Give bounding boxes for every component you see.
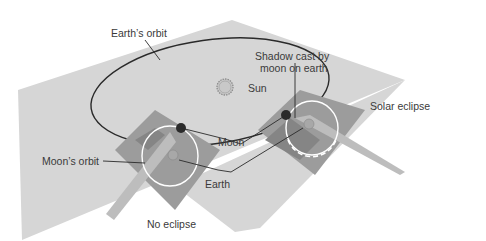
diagram-canvas (0, 0, 486, 241)
shadow-label-line1: Shadow cast by (255, 50, 329, 62)
moons-orbit-label: Moon’s orbit (42, 155, 99, 167)
moon-left (176, 123, 186, 133)
earth-right (304, 119, 314, 129)
moon-label: Moon (218, 136, 244, 148)
shadow-label-line2: moon on earth (260, 62, 328, 74)
earth-label: Earth (205, 178, 230, 190)
eclipse-diagram: Earth’s orbit Shadow cast by moon on ear… (0, 0, 486, 241)
sun-core (219, 81, 231, 93)
earth-left (168, 150, 178, 160)
earth-orbit-label: Earth’s orbit (111, 27, 167, 39)
sun-label: Sun (248, 82, 267, 94)
no-eclipse-label: No eclipse (147, 218, 196, 230)
solar-eclipse-label: Solar eclipse (370, 100, 430, 112)
